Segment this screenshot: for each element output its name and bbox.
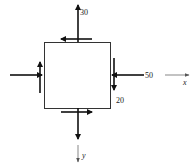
label-axis-y: y bbox=[81, 151, 86, 160]
label-normal-y: 30 bbox=[80, 8, 88, 17]
label-axis-x: x bbox=[182, 78, 187, 87]
stress-element-diagram: 30 50 20 x y bbox=[0, 0, 194, 167]
stress-element-square bbox=[45, 43, 111, 109]
label-shear: 20 bbox=[116, 96, 124, 105]
label-normal-x: 50 bbox=[145, 71, 153, 80]
